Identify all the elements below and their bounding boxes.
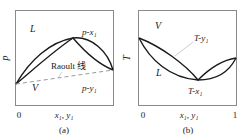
- panel-a-x-tick-0: 0: [17, 110, 22, 120]
- panel-a-px-label: p-x₁: [81, 27, 97, 37]
- panel-b-ty-label: T-y₁: [194, 33, 208, 43]
- panel-b-y-axis-label: T: [121, 54, 132, 61]
- panel-a-caption: (a): [59, 125, 69, 135]
- panel-a-x-axis-label: x₁, y₁: [54, 110, 74, 120]
- panel-b-ty-leader: [175, 42, 193, 56]
- panel-a: L V p-x₁ p-y₁ Raoult 线 p 0 x₁, y₁ (a): [0, 11, 114, 136]
- panel-b-caption: (b): [183, 125, 194, 135]
- panel-a-y-axis-label: p: [0, 56, 10, 62]
- panel-b-x-axis-label: x₁, y₁: [179, 110, 199, 120]
- panel-b-x-tick-0: 0: [141, 110, 146, 120]
- panel-a-raoult-label: Raoult 线: [51, 60, 86, 71]
- panel-a-region-v: V: [32, 82, 40, 93]
- panel-b: V L T-y₁ T-x₁ T 0 x₁, y₁ 1 (b): [121, 11, 237, 136]
- phase-diagrams: L V p-x₁ p-y₁ Raoult 线 p 0 x₁, y₁ (a) V …: [0, 0, 247, 140]
- panel-b-x-tick-1: 1: [233, 110, 238, 120]
- panel-a-region-l: L: [29, 23, 36, 34]
- panel-b-region-l: L: [155, 67, 162, 78]
- panel-a-py-label: p-y₁: [81, 83, 97, 93]
- panel-b-tx-label: T-x₁: [188, 86, 202, 96]
- panel-b-region-v: V: [155, 20, 163, 31]
